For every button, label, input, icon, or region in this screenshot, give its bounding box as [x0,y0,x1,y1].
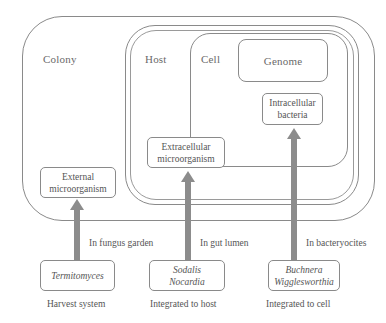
organism-box-sodalis-nocardia: Sodalis Nocardia [149,260,225,291]
organism-name: Buchnera [286,264,323,276]
genome-box: Genome [238,39,328,82]
genome-label: Genome [264,55,302,67]
arrow-label-bacteriocytes: In bacteryocites [306,238,366,248]
external-microorganism-box: External microorganism [40,167,116,198]
organism-name: Sodalis [173,264,201,276]
organism-box-buchnera-wigglesworthia: Buchnera Wigglesworthia [268,260,340,291]
intracellular-line1: Intracellular [269,97,315,109]
extracellular-line2: microorganism [157,153,214,165]
arrow-up-icon [291,138,297,260]
colony-label: Colony [43,53,77,65]
cell-label: Cell [201,53,220,65]
organism-name: Termitomyces [51,270,103,282]
intracellular-line2: bacteria [277,109,307,121]
organism-name: Nocardia [169,276,205,288]
category-harvest: Harvest system [47,299,105,309]
arrow-up-icon [74,209,80,260]
arrow-up-icon [185,181,191,260]
arrow-label-gut: In gut lumen [200,238,249,248]
category-cell: Integrated to cell [266,299,330,309]
external-line1: External [62,171,94,183]
extracellular-line1: Extracellular [161,141,210,153]
extracellular-microorganism-box: Extracellular microorganism [147,137,225,168]
organism-box-termitomyces: Termitomyces [40,260,115,291]
host-label: Host [145,53,167,65]
arrow-label-fungus: In fungus garden [89,238,153,248]
intracellular-bacteria-box: Intracellular bacteria [262,93,323,125]
external-line2: microorganism [49,183,106,195]
organism-name: Wigglesworthia [274,276,334,288]
category-host: Integrated to host [150,299,216,309]
